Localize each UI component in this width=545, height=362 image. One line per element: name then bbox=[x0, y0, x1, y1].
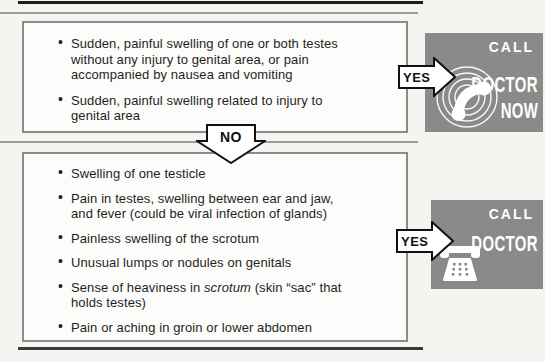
call-label: CALL bbox=[489, 39, 534, 55]
symptom-item: Pain or aching in groin or lower abdomen bbox=[58, 320, 396, 336]
yes-arrow-nonurgent: YES bbox=[396, 221, 454, 261]
top-dark-rule bbox=[18, 1, 423, 4]
symptom-text-italic: scrotum bbox=[204, 280, 251, 295]
bottom-dark-rule bbox=[18, 347, 423, 350]
urgent-symptoms-box: Sudden, painful swelling of one or both … bbox=[22, 21, 408, 133]
urgent-symptoms-list: Sudden, painful swelling of one or both … bbox=[24, 23, 406, 124]
symptom-text: Pain or aching in groin or lower abdomen bbox=[71, 320, 312, 335]
top-gray-rule bbox=[0, 12, 418, 14]
non-urgent-symptoms-box: Swelling of one testicle Pain in testes,… bbox=[22, 152, 408, 342]
symptom-text: Painless swelling of the scrotum bbox=[71, 231, 259, 246]
now-label: NOW bbox=[500, 98, 538, 124]
no-arrow: NO bbox=[196, 124, 266, 164]
symptom-item: Sudden, painful swelling of one or both … bbox=[58, 36, 376, 83]
non-urgent-symptoms-list: Swelling of one testicle Pain in testes,… bbox=[24, 154, 406, 335]
symptom-item: Swelling of one testicle bbox=[58, 166, 396, 182]
yes-label: YES bbox=[403, 70, 431, 85]
no-label: NO bbox=[196, 129, 266, 145]
symptom-item: Sense of heaviness in scrotum (skin “sac… bbox=[58, 280, 356, 311]
symptom-item: Pain in testes, swelling between ear and… bbox=[58, 191, 346, 222]
symptom-item: Unusual lumps or nodules on genitals bbox=[58, 255, 396, 271]
doctor-label: DOCTOR bbox=[471, 72, 538, 98]
symptom-text: Sense of heaviness in bbox=[71, 280, 204, 295]
symptom-text: Sudden, painful swelling related to inju… bbox=[71, 93, 323, 124]
yes-label: YES bbox=[401, 234, 429, 249]
symptom-text: Pain in testes, swelling between ear and… bbox=[71, 191, 334, 222]
call-label: CALL bbox=[489, 206, 534, 222]
symptom-text: Unusual lumps or nodules on genitals bbox=[71, 255, 291, 270]
doctor-label: DOCTOR bbox=[471, 231, 538, 257]
symptom-item: Sudden, painful swelling related to inju… bbox=[58, 93, 329, 124]
symptom-text: Swelling of one testicle bbox=[71, 166, 206, 181]
yes-arrow-urgent: YES bbox=[398, 57, 456, 97]
symptom-item: Painless swelling of the scrotum bbox=[58, 231, 396, 247]
symptom-text: Sudden, painful swelling of one or both … bbox=[71, 36, 338, 82]
